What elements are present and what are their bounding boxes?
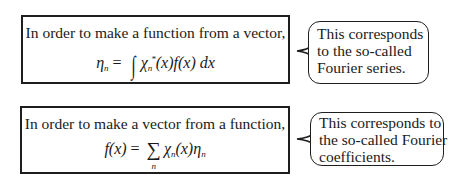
equals-sign: = — [131, 140, 140, 157]
differential: dx — [200, 54, 215, 71]
equals-sign: = — [113, 54, 122, 71]
integral-formula: ηn = ∫χn*(x)f(x) dx — [23, 49, 288, 78]
eta-symbol: η — [193, 140, 201, 157]
definition-box-fourier-coefficients: In order to make a vector from a functio… — [20, 106, 290, 174]
definition-intro-text: In order to make a function from a vecto… — [23, 24, 288, 42]
definition-intro-text: In order to make a vector from a functio… — [22, 115, 288, 133]
callout-fourier-coefficients: This corresponds to the so-called Fourie… — [310, 112, 444, 166]
chi-symbol: χ — [164, 140, 171, 157]
function-term: f(x) — [104, 140, 126, 157]
chi-symbol: χ — [141, 54, 148, 71]
callout-fourier-series: This corresponds to the so-called Fourie… — [308, 21, 429, 84]
eta-symbol: η — [96, 54, 104, 71]
sum-formula: f(x) = ∑nχn(x)ηn — [22, 139, 288, 164]
integral-sign-icon: ∫ — [131, 56, 135, 76]
function-term: f(x) — [174, 54, 196, 71]
definition-box-fourier-series: In order to make a function from a vecto… — [21, 15, 290, 84]
summation-sign-icon: ∑n — [147, 141, 161, 161]
